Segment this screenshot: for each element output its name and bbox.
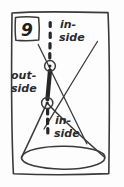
label-outside-line2: side xyxy=(11,82,37,95)
label-inside-top-line1: in- xyxy=(60,18,76,31)
figure-drawing: 9 xyxy=(0,0,124,187)
figure-container: 9 xyxy=(0,0,124,187)
label-inside-top-line2: side xyxy=(59,31,85,44)
chord-segment xyxy=(47,71,50,100)
label-outside-line1: out- xyxy=(11,69,36,82)
cone-base-ellipse xyxy=(22,146,105,169)
figure-number: 9 xyxy=(21,20,33,40)
label-inside-bottom-line1: in- xyxy=(55,114,71,127)
label-inside-bottom-line2: side xyxy=(54,127,80,140)
